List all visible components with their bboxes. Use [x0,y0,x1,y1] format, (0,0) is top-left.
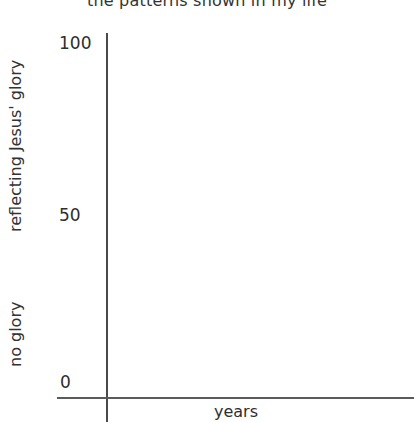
y-tick-100: 100 [59,33,91,53]
y-axis-line [106,33,108,422]
y-annotation-high: reflecting Jesus' glory [6,60,25,232]
chart-title: the patterns shown in my life [0,0,414,10]
y-annotation-low: no glory [6,302,25,367]
x-axis-label: years [214,402,258,421]
y-tick-50: 50 [59,205,81,225]
y-tick-0: 0 [60,372,71,392]
x-axis-line [57,397,414,399]
